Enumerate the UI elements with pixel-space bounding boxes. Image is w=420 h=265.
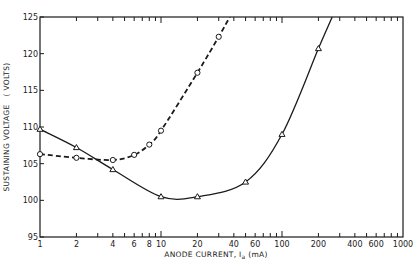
- circle-marker: [195, 70, 200, 75]
- triangle-marker: [279, 131, 285, 136]
- x-tick-label: 8: [147, 240, 152, 249]
- axis-titles: ANODE CURRENT, Ia (mA) SUSTAINING VOLTAG…: [2, 62, 268, 259]
- y-tick-label: 115: [23, 86, 38, 95]
- circle-marker: [74, 155, 79, 160]
- x-tick-label: 4: [110, 240, 115, 249]
- x-tick-label: 2: [74, 240, 79, 249]
- y-tick-label: 120: [23, 50, 38, 59]
- y-tick-label: 100: [23, 196, 38, 205]
- circle-marker: [147, 142, 152, 147]
- tick-labels: 1246810204060100200400600100095100105110…: [23, 13, 413, 249]
- y-tick-label: 95: [28, 233, 38, 242]
- circle-marker: [37, 152, 42, 157]
- x-tick-label: 1000: [393, 240, 413, 249]
- triangle-marker: [110, 167, 116, 172]
- circle-marker: [216, 34, 221, 39]
- series-circle-dashed: [37, 17, 229, 163]
- x-tick-label: 200: [311, 240, 326, 249]
- tick-marks: [40, 17, 397, 237]
- axes: [40, 17, 403, 237]
- series-triangle-solid: [37, 17, 332, 199]
- x-tick-label: 400: [347, 240, 362, 249]
- x-tick-label: 40: [229, 240, 239, 249]
- x-tick-label: 60: [250, 240, 260, 249]
- circle-marker: [132, 152, 137, 157]
- y-tick-label: 105: [23, 160, 38, 169]
- x-tick-label: 20: [192, 240, 202, 249]
- plot-frame: [40, 17, 403, 237]
- circle-marker: [110, 157, 115, 162]
- series-line: [40, 17, 230, 160]
- circle-marker: [158, 128, 163, 133]
- chart-canvas: 1246810204060100200400600100095100105110…: [0, 0, 420, 265]
- y-axis-title: SUSTAINING VOLTAGE( VOLTS): [2, 62, 11, 191]
- x-tick-label: 100: [274, 240, 289, 249]
- series-line: [40, 17, 332, 199]
- x-axis-title: ANODE CURRENT, Ia (mA): [164, 250, 268, 260]
- x-tick-label: 1: [37, 240, 42, 249]
- data-series: [37, 17, 332, 199]
- y-tick-label: 125: [23, 13, 38, 22]
- x-tick-label: 10: [156, 240, 166, 249]
- x-tick-label: 6: [132, 240, 137, 249]
- triangle-marker: [315, 46, 321, 51]
- y-tick-label: 110: [23, 123, 38, 132]
- x-tick-label: 600: [369, 240, 384, 249]
